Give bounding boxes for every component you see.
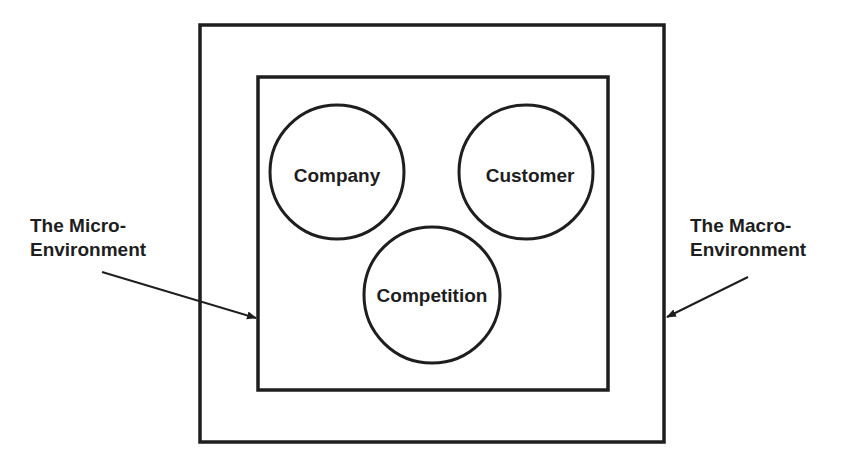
macro-label-line1: The Macro- <box>690 215 791 236</box>
environment-diagram: Company Customer Competition The Micro- … <box>0 0 856 462</box>
micro-label-line2: Environment <box>30 239 147 260</box>
circle-company: Company <box>270 105 404 239</box>
macro-label-line2: Environment <box>690 239 807 260</box>
micro-label-line1: The Micro- <box>30 215 126 236</box>
circle-competition: Competition <box>364 227 500 363</box>
micro-environment-label: The Micro- Environment <box>30 215 147 260</box>
micro-arrow-icon <box>102 272 256 318</box>
circle-customer: Customer <box>459 105 593 239</box>
macro-arrow-icon <box>667 277 748 317</box>
macro-environment-label: The Macro- Environment <box>690 215 807 260</box>
circle-label-company: Company <box>294 165 381 186</box>
circle-label-customer: Customer <box>486 165 575 186</box>
circle-label-competition: Competition <box>377 285 488 306</box>
